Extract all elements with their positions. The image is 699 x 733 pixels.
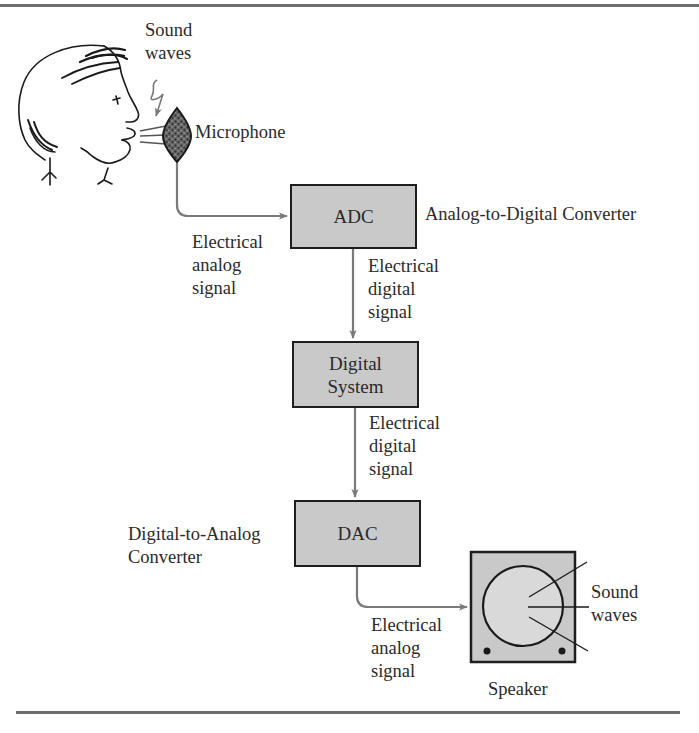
- microphone-icon: [163, 108, 191, 162]
- label-line: waves: [591, 604, 638, 627]
- label-line: digital: [368, 278, 439, 301]
- label-line: Converter: [128, 546, 261, 569]
- speaker-label: Speaker: [488, 678, 548, 701]
- label-line: Electrical: [368, 255, 439, 278]
- label-line: signal: [192, 277, 263, 300]
- signal-label-mic-to-adc: Electrical analog signal: [192, 231, 263, 300]
- block-digital-system: Digital System: [292, 341, 419, 408]
- label-line: Sound: [591, 581, 638, 604]
- microphone-label: Microphone: [195, 121, 285, 144]
- label-line: analog: [371, 637, 442, 660]
- label-line: Electrical: [371, 614, 442, 637]
- label-line: Sound: [145, 19, 192, 42]
- signal-arrow-dac-to-speaker: [357, 567, 467, 607]
- block-dac-label: DAC: [337, 522, 377, 545]
- block-adc: ADC: [290, 184, 417, 249]
- signal-arrow-mic-to-adc: [177, 163, 287, 216]
- label-line: Electrical: [192, 231, 263, 254]
- adc-description: Analog-to-Digital Converter: [425, 203, 636, 226]
- label-line: analog: [192, 254, 263, 277]
- sound-waves-label-output: Sound waves: [591, 581, 638, 627]
- label-line: signal: [368, 301, 439, 324]
- block-digital-system-label-line2: System: [328, 375, 384, 398]
- dac-description: Digital-to-Analog Converter: [128, 523, 261, 569]
- signal-label-dac-to-speaker: Electrical analog signal: [371, 614, 442, 683]
- label-line: waves: [145, 42, 192, 65]
- label-line: Digital-to-Analog: [128, 523, 261, 546]
- signal-label-digital-system-to-dac: Electrical digital signal: [369, 412, 440, 481]
- label-line: signal: [371, 660, 442, 683]
- label-line: signal: [369, 458, 440, 481]
- label-line: digital: [369, 435, 440, 458]
- sound-waves-label-input: Sound waves: [145, 19, 192, 65]
- label-line: Electrical: [369, 412, 440, 435]
- block-digital-system-label-line1: Digital: [329, 352, 382, 375]
- block-adc-label: ADC: [333, 205, 373, 228]
- person-head-icon: [19, 45, 139, 185]
- block-dac: DAC: [294, 500, 421, 567]
- signal-label-adc-to-digital-system: Electrical digital signal: [368, 255, 439, 324]
